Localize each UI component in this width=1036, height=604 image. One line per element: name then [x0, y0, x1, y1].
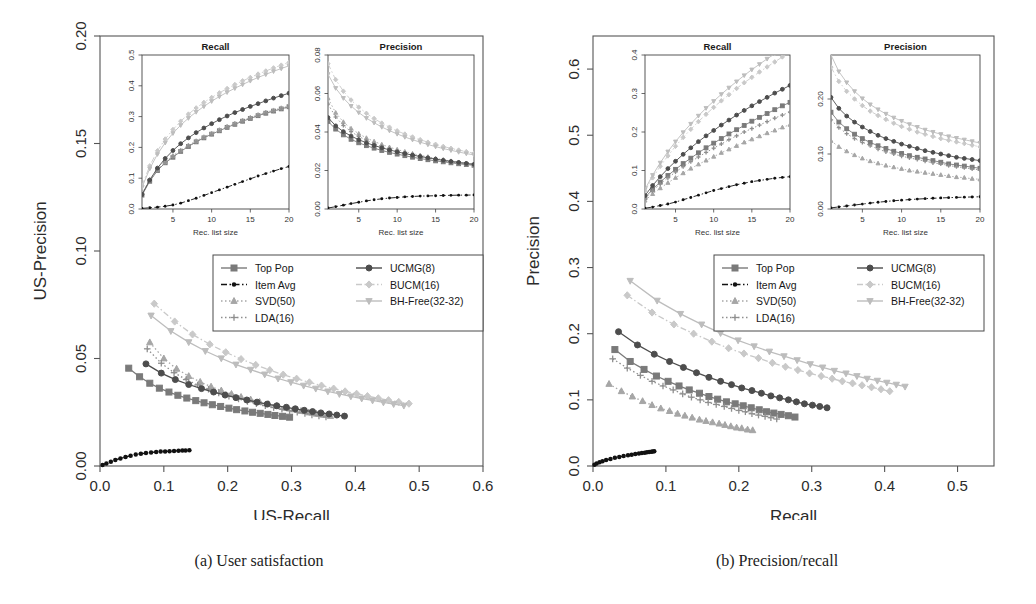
- svg-text:0.0: 0.0: [90, 477, 111, 494]
- svg-text:0.3: 0.3: [630, 87, 639, 99]
- series-item-avg: [100, 448, 191, 467]
- svg-text:0.10: 0.10: [816, 146, 825, 162]
- series-top-pop: [612, 347, 798, 420]
- svg-text:5: 5: [673, 215, 678, 224]
- svg-text:0.2: 0.2: [127, 141, 136, 153]
- svg-text:Recall: Recall: [202, 41, 230, 52]
- svg-text:0.4: 0.4: [345, 477, 366, 494]
- svg-text:0.1: 0.1: [630, 164, 639, 176]
- svg-text:Rec. list size: Rec. list size: [695, 228, 740, 237]
- svg-text:0.4: 0.4: [565, 191, 582, 212]
- inset-recall: Recall51015200.00.10.20.30.40.5Rec. list…: [114, 39, 295, 239]
- svg-text:US-Precision: US-Precision: [31, 201, 50, 300]
- svg-text:5: 5: [171, 215, 176, 224]
- panel-b-caption: (b) Precision/recall: [518, 552, 1036, 570]
- svg-text:20: 20: [976, 215, 985, 224]
- svg-text:0.3: 0.3: [565, 257, 582, 278]
- svg-text:0.00: 0.00: [816, 201, 825, 217]
- svg-text:20: 20: [285, 215, 294, 224]
- svg-text:0.05: 0.05: [72, 344, 89, 373]
- legend-label: LDA(16): [255, 312, 294, 324]
- legend-label: BUCM(16): [891, 279, 941, 291]
- svg-text:0.15: 0.15: [72, 129, 89, 158]
- svg-text:15: 15: [747, 215, 756, 224]
- svg-text:0.06: 0.06: [313, 85, 322, 101]
- svg-text:0.4: 0.4: [874, 477, 895, 494]
- series-item-avg: [592, 449, 656, 467]
- svg-text:0.5: 0.5: [409, 477, 430, 494]
- series-markers: [612, 347, 798, 420]
- series-markers: [592, 449, 656, 467]
- svg-text:20: 20: [470, 215, 479, 224]
- legend-label: Top Pop: [756, 262, 795, 274]
- panel-a-plot: 0.00.10.20.30.40.50.60.000.050.100.150.2…: [0, 0, 518, 520]
- svg-text:0.3: 0.3: [281, 477, 302, 494]
- legend-label: SVD(50): [255, 295, 295, 307]
- svg-text:0.04: 0.04: [313, 124, 322, 140]
- svg-text:Precision: Precision: [524, 216, 543, 286]
- svg-text:0.02: 0.02: [313, 162, 322, 178]
- legend-label: Item Avg: [255, 279, 296, 291]
- svg-text:0.4: 0.4: [127, 80, 136, 92]
- svg-text:Rec. list size: Rec. list size: [883, 228, 928, 237]
- svg-text:0.1: 0.1: [127, 172, 136, 184]
- figure-root: 0.00.10.20.30.40.50.60.000.050.100.150.2…: [0, 0, 1036, 604]
- svg-text:15: 15: [936, 215, 945, 224]
- svg-text:0.2: 0.2: [728, 477, 749, 494]
- svg-text:20: 20: [786, 215, 795, 224]
- svg-text:0.0: 0.0: [583, 477, 604, 494]
- legend-label: Top Pop: [255, 262, 294, 274]
- svg-text:0.08: 0.08: [313, 47, 322, 63]
- svg-text:0.2: 0.2: [630, 126, 639, 138]
- legend-label: Item Avg: [756, 279, 797, 291]
- svg-text:0.20: 0.20: [816, 91, 825, 107]
- svg-text:10: 10: [393, 215, 402, 224]
- inset-recall: Recall51015200.00.10.20.30.4Rec. list si…: [617, 39, 796, 239]
- svg-text:0.0: 0.0: [127, 203, 136, 215]
- panel-precision-recall: 0.00.10.20.30.40.50.00.10.20.30.40.50.6R…: [518, 0, 1036, 604]
- legend: Top PopItem AvgSVD(50)LDA(16)UCMG(8)BUCM…: [714, 255, 984, 331]
- svg-text:0.0: 0.0: [630, 203, 639, 215]
- series-markers: [100, 448, 191, 467]
- svg-text:Recall: Recall: [770, 507, 817, 520]
- svg-text:Precision: Precision: [884, 41, 927, 52]
- svg-text:Rec. list size: Rec. list size: [193, 228, 238, 237]
- legend: Top PopItem AvgSVD(50)LDA(16)UCMG(8)BUCM…: [213, 255, 483, 331]
- svg-text:0.20: 0.20: [72, 21, 89, 50]
- svg-text:US-Recall: US-Recall: [253, 507, 330, 520]
- svg-text:Rec. list size: Rec. list size: [379, 228, 424, 237]
- svg-text:15: 15: [246, 215, 255, 224]
- inset-precision: Precision51015200.000.100.20Rec. list si…: [803, 39, 986, 239]
- svg-text:0.6: 0.6: [565, 59, 582, 80]
- legend-label: SVD(50): [756, 295, 796, 307]
- legend-box: [213, 255, 483, 331]
- panel-a-caption: (a) User satisfaction: [0, 552, 518, 570]
- svg-text:Precision: Precision: [380, 41, 423, 52]
- svg-text:10: 10: [897, 215, 906, 224]
- panel-user-satisfaction: 0.00.10.20.30.40.50.60.000.050.100.150.2…: [0, 0, 518, 604]
- svg-text:15: 15: [431, 215, 440, 224]
- svg-text:10: 10: [709, 215, 718, 224]
- svg-text:0.0: 0.0: [565, 456, 582, 477]
- legend-label: BH-Free(32-32): [891, 295, 965, 307]
- svg-text:0.00: 0.00: [72, 451, 89, 480]
- svg-text:5: 5: [357, 215, 362, 224]
- svg-text:10: 10: [207, 215, 216, 224]
- panel-b-plot: 0.00.10.20.30.40.50.00.10.20.30.40.50.6R…: [518, 0, 1036, 520]
- svg-text:0.00: 0.00: [313, 201, 322, 217]
- svg-text:Recall: Recall: [704, 41, 732, 52]
- legend-label: UCMG(8): [390, 262, 435, 274]
- svg-text:0.3: 0.3: [801, 477, 822, 494]
- inset-precision: Precision51015200.000.020.040.060.08Rec.…: [300, 39, 480, 239]
- legend-label: BH-Free(32-32): [390, 295, 464, 307]
- svg-text:0.1: 0.1: [565, 389, 582, 410]
- svg-text:0.4: 0.4: [630, 49, 639, 61]
- legend-label: UCMG(8): [891, 262, 936, 274]
- svg-text:0.6: 0.6: [473, 477, 494, 494]
- series-line: [615, 350, 795, 417]
- svg-text:0.2: 0.2: [217, 477, 238, 494]
- svg-text:0.1: 0.1: [655, 477, 676, 494]
- legend-label: LDA(16): [756, 312, 795, 324]
- svg-text:0.10: 0.10: [72, 236, 89, 265]
- svg-text:0.5: 0.5: [565, 125, 582, 146]
